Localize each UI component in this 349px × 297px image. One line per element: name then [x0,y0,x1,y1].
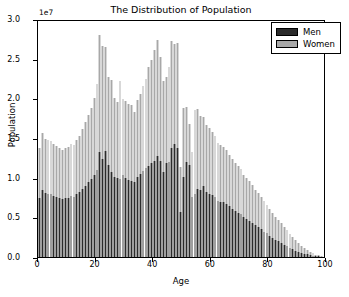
bar-segment-women [176,43,179,148]
y-tick-label-6: 3.0 [0,16,20,24]
plot-area [37,20,325,258]
y-tick-label-2: 1.0 [0,175,20,183]
x-tick-mark-1 [95,258,96,262]
y-tick-label-3: 1.5 [0,135,20,143]
legend-swatch-men-icon [276,28,298,36]
y-axis-offset-label: 1e7 [39,8,53,17]
chart-legend: Men Women [271,22,341,54]
y-tick-label-5: 2.5 [0,56,20,64]
x-tick-label-1: 20 [80,261,110,269]
x-tick-label-4: 80 [252,261,282,269]
y-tick-label-4: 2.0 [0,95,20,103]
legend-swatch-women-icon [276,40,298,48]
y-tick-label-0: 0.0 [0,254,20,262]
legend-item-women: Women [276,38,335,50]
stacked-bars-container [38,21,324,257]
x-tick-label-0: 0 [22,261,52,269]
chart-title: The Distribution of Population [37,4,325,16]
x-tick-label-2: 40 [137,261,167,269]
x-tick-label-5: 100 [310,261,340,269]
population-distribution-chart: The Distribution of Population 1e7 Popul… [0,0,349,297]
x-tick-mark-0 [37,258,38,262]
legend-label-women: Women [303,39,335,49]
legend-label-men: Men [303,27,321,37]
x-axis-label: Age [37,276,325,286]
x-tick-mark-5 [325,258,326,262]
x-tick-mark-4 [267,258,268,262]
x-tick-mark-2 [152,258,153,262]
legend-item-men: Men [276,26,335,38]
x-tick-mark-3 [210,258,211,262]
y-tick-label-1: 0.5 [0,214,20,222]
x-tick-label-3: 60 [195,261,225,269]
